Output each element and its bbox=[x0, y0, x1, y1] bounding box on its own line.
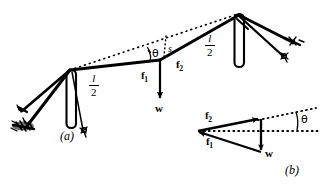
f2-subscript: 2 bbox=[179, 64, 183, 73]
caption-b: (b) bbox=[285, 164, 299, 176]
force-label-f2-a: f2 bbox=[176, 59, 183, 73]
ground-anchor-right-lower bbox=[281, 53, 288, 62]
span-label-right: l 2 bbox=[205, 33, 215, 58]
span-right-numerator: l bbox=[205, 33, 215, 45]
f1-subscript: 1 bbox=[144, 75, 148, 84]
force-label-f1-b: f1 bbox=[206, 136, 213, 150]
physics-figure: l 2 l 2 θ s f1 f2 w (a) f2 f1 w θ (b) bbox=[0, 0, 327, 187]
ground-anchor-left-below bbox=[80, 127, 87, 137]
f1-subscript-b: 1 bbox=[209, 141, 213, 150]
force-label-f1-a: f1 bbox=[141, 70, 148, 84]
span-left-denominator: 2 bbox=[89, 87, 99, 99]
force-label-f2-b: f2 bbox=[205, 110, 212, 124]
panel-b-artwork bbox=[198, 108, 318, 152]
angle-label-theta-a: θ bbox=[152, 48, 159, 59]
panel-a-artwork bbox=[11, 14, 304, 137]
caption-a: (a) bbox=[60, 130, 74, 142]
angle-arc-theta-a bbox=[148, 48, 151, 61]
angle-arc-theta-b bbox=[296, 112, 298, 130]
sag-dotted-tick bbox=[164, 36, 166, 56]
figure-artwork bbox=[0, 0, 327, 187]
f2-subscript-b: 2 bbox=[208, 115, 212, 124]
span-left-numerator: l bbox=[89, 73, 99, 85]
span-right-denominator: 2 bbox=[205, 47, 215, 59]
left-pole bbox=[67, 70, 77, 128]
angle-label-theta-b: θ bbox=[301, 114, 308, 125]
span-label-left: l 2 bbox=[89, 73, 99, 98]
weight-label-w-a: w bbox=[155, 103, 163, 114]
sag-label-s: s bbox=[168, 44, 172, 54]
weight-label-w-b: w bbox=[265, 148, 273, 159]
